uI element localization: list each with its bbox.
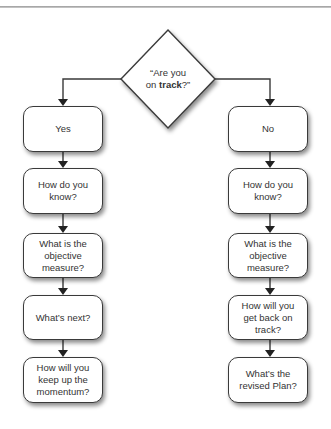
node-no-objective-measure: What is the objective measure?: [228, 233, 308, 278]
node-yes-keep-momentum: How will you keep up the momentum?: [23, 357, 103, 403]
node-yes-objective-measure: What is the objective measure?: [23, 233, 103, 278]
decision-node: “Are you on track?”: [121, 30, 215, 128]
node-yes-whats-next: What’s next?: [23, 295, 103, 340]
decision-line-1: “Are you: [150, 67, 186, 79]
connector-to-yes: [63, 79, 121, 100]
arrow-head-icon: [265, 161, 275, 168]
arrow-head-icon: [265, 350, 275, 357]
node-no-revised-plan: What’s the revised Plan?: [228, 357, 308, 403]
decision-line-2: on track?”: [146, 79, 190, 91]
node-yes: Yes: [23, 106, 103, 152]
connector-to-no: [215, 79, 270, 100]
arrow-head-icon: [265, 226, 275, 233]
arrow-head-icon: [58, 99, 68, 106]
node-no-get-back-on-track: How will you get back on track?: [228, 295, 308, 340]
decision-text: “Are you on track?”: [121, 30, 215, 128]
arrow-head-icon: [58, 161, 68, 168]
decision-keyword: track: [159, 79, 182, 90]
node-no-how-do-you-know: How do you know?: [228, 168, 308, 214]
arrow-head-icon: [265, 99, 275, 106]
arrow-head-icon: [58, 288, 68, 295]
arrow-head-icon: [58, 350, 68, 357]
node-yes-how-do-you-know: How do you know?: [23, 168, 103, 214]
arrow-head-icon: [265, 288, 275, 295]
arrow-head-icon: [58, 226, 68, 233]
node-no: No: [228, 106, 308, 152]
